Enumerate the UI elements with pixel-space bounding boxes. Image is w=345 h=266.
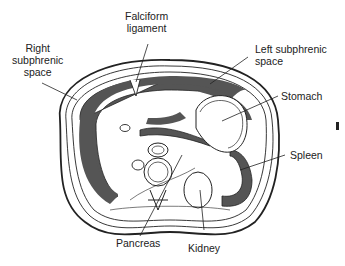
label-line: Right bbox=[12, 42, 63, 54]
label-falciform: Falciform ligament bbox=[125, 10, 168, 34]
label-kidney: Kidney bbox=[188, 242, 220, 254]
label-spleen: Spleen bbox=[290, 149, 323, 161]
label-line: space bbox=[255, 55, 327, 67]
label-stomach: Stomach bbox=[281, 90, 322, 102]
label-right-subphrenic: Right subphrenic space bbox=[12, 42, 63, 78]
abdomen-cross-section bbox=[0, 0, 345, 266]
label-line: Left subphrenic bbox=[255, 43, 327, 55]
label-line: Falciform bbox=[125, 10, 168, 22]
label-left-subphrenic: Left subphrenic space bbox=[255, 43, 327, 67]
label-pancreas: Pancreas bbox=[116, 237, 160, 249]
label-line: subphrenic bbox=[12, 54, 63, 66]
label-line: ligament bbox=[125, 22, 168, 34]
edge-mark bbox=[336, 122, 339, 130]
label-line: space bbox=[12, 66, 63, 78]
